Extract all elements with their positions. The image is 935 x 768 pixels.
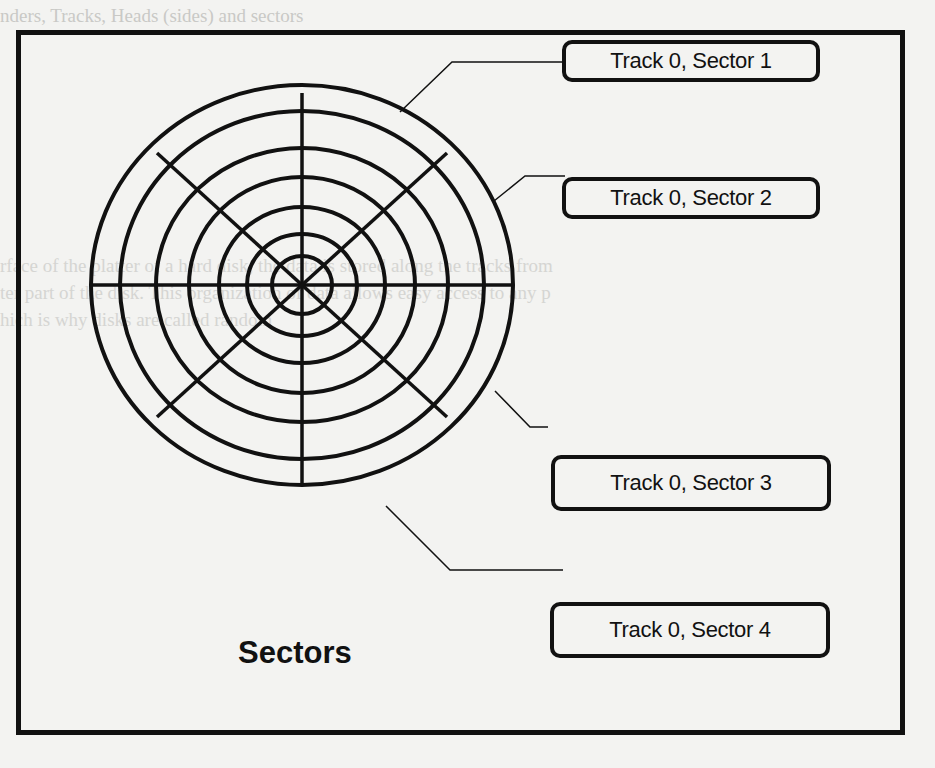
- label-track0-sector1: Track 0, Sector 1: [562, 40, 820, 82]
- leader-line-sector-2: [494, 176, 565, 201]
- leader-line-sector-3: [495, 391, 548, 427]
- label-track0-sector3: Track 0, Sector 3: [551, 455, 831, 511]
- leader-lines: [386, 62, 565, 570]
- label-track0-sector2: Track 0, Sector 2: [562, 177, 820, 219]
- leader-line-sector-1: [400, 62, 565, 112]
- diagram-caption: Sectors: [238, 635, 352, 671]
- leader-line-sector-4: [386, 506, 563, 570]
- label-track0-sector4: Track 0, Sector 4: [550, 602, 830, 658]
